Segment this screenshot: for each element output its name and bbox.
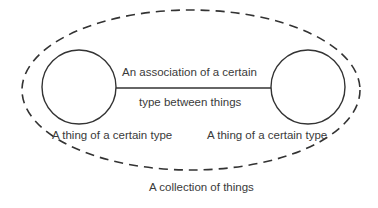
left-thing-circle	[42, 50, 116, 124]
right-thing-label: A thing of a certain type	[207, 130, 327, 142]
collection-ellipse	[22, 10, 360, 170]
right-thing-circle	[271, 50, 345, 124]
association-label-line1: An association of a certain	[122, 67, 257, 79]
collection-label: A collection of things	[149, 182, 254, 194]
left-thing-label: A thing of a certain type	[52, 130, 172, 142]
association-label-line2: type between things	[139, 97, 241, 109]
